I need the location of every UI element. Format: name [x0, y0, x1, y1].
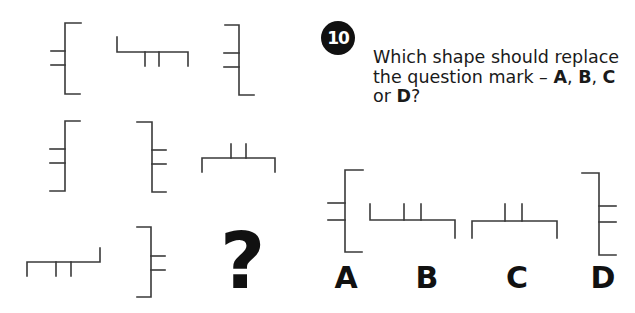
question-number-badge: 10	[321, 21, 355, 55]
option-c-label[interactable]: C	[506, 262, 528, 294]
grid-shape-3	[224, 25, 254, 95]
question-suffix: ?	[411, 86, 420, 106]
grid-shape-7	[27, 248, 100, 276]
question-sep: ,	[567, 67, 578, 87]
question-opt-a: A	[553, 67, 567, 87]
question-sep: or	[373, 86, 396, 106]
option-d-label[interactable]: D	[591, 262, 616, 294]
grid-shape-4	[50, 121, 80, 191]
question-opt-d: D	[396, 86, 411, 106]
option-b-shape[interactable]	[370, 204, 455, 238]
missing-shape-question-mark: ?	[220, 222, 265, 300]
option-d-shape[interactable]	[582, 173, 616, 255]
option-a-label[interactable]: A	[334, 262, 357, 294]
option-a-shape[interactable]	[328, 170, 363, 252]
question-opt-c: C	[603, 67, 616, 87]
grid-shape-1	[51, 23, 81, 94]
option-b-label[interactable]: B	[416, 262, 439, 294]
question-sep: ,	[591, 67, 602, 87]
grid-shape-8	[137, 227, 165, 297]
question-opt-b: B	[578, 67, 591, 87]
option-c-shape[interactable]	[472, 204, 557, 238]
grid-shape-2	[117, 37, 188, 66]
question-text: Which shape should replace the question …	[373, 48, 635, 107]
grid-shape-6	[202, 144, 275, 172]
grid-shape-5	[137, 122, 166, 192]
